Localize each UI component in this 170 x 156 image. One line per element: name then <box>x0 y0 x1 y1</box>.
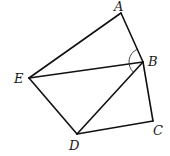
label-D: D <box>68 138 80 153</box>
segment-EB <box>29 62 143 78</box>
segment-DE <box>29 78 77 134</box>
segment-BD <box>77 62 143 134</box>
segment-AB <box>121 13 143 62</box>
segment-BC <box>143 62 153 121</box>
label-A: A <box>113 0 123 14</box>
segment-EA <box>29 13 121 78</box>
label-C: C <box>153 123 163 138</box>
label-B: B <box>147 54 158 69</box>
label-E: E <box>13 71 24 86</box>
geometry-diagram: A B C D E <box>0 0 170 156</box>
segment-CD <box>77 121 153 134</box>
